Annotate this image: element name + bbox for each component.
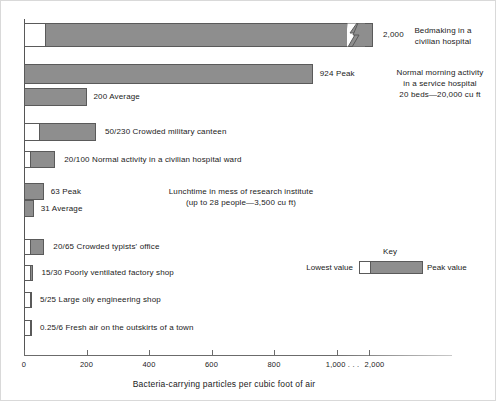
bar-value-label-research-mess-average: 31 Average [41, 205, 83, 213]
bar-value-label-civilian-hospital-ward: 20/100 Normal activity in a civilian hos… [64, 156, 241, 164]
bar-military-canteen [24, 123, 96, 141]
x-tick-label-2000: 2,000 [365, 360, 385, 369]
bar-segment-peak-service-hospital-peak [24, 64, 313, 84]
x-tick-800 [274, 350, 275, 356]
description-line: (up to 28 people—3,500 cu ft) [121, 197, 361, 208]
legend-swatch-low [359, 261, 371, 274]
description-line: Normal morning activity [387, 67, 493, 78]
bar-value-label-research-mess-peak: 63 Peak [51, 188, 81, 196]
bar-fresh-air [24, 320, 32, 336]
x-tick-2000 [369, 350, 370, 356]
bar-description-service-hospital-peak: Normal morning activityin a service hosp… [387, 67, 493, 100]
legend-low-label: Lowest value [306, 263, 353, 272]
x-tick-label-600: 600 [205, 360, 218, 369]
bar-segment-peak-bedmaking [46, 23, 373, 47]
bar-bedmaking [24, 23, 373, 47]
bar-segment-low-fresh-air [24, 320, 31, 336]
bar-segment-low-factory-shop [24, 265, 31, 281]
bar-service-hospital-average [24, 88, 87, 106]
bar-segment-low-bedmaking [24, 23, 46, 47]
bar-description-research-mess-peak: Lunchtime in mess of research institute(… [121, 186, 361, 208]
bar-segment-low-military-canteen [24, 123, 40, 141]
description-line: Lunchtime in mess of research institute [121, 186, 361, 197]
bar-value-label-military-canteen: 50/230 Crowded military canteen [105, 128, 227, 136]
bar-segment-peak-research-mess-average [24, 200, 34, 217]
x-tick-label-0: 0 [22, 360, 26, 369]
x-tick-label-200: 200 [80, 360, 93, 369]
bar-factory-shop [24, 265, 33, 281]
bar-value-label-fresh-air: 0.25/6 Fresh air on the outskirts of a t… [40, 324, 194, 332]
bar-value-label-typists-office: 20/65 Crowded typists' office [53, 243, 159, 251]
bar-segment-peak-research-mess-peak [24, 183, 44, 200]
bar-segment-peak-typists-office [31, 239, 44, 255]
description-line: civilian hospital [397, 36, 489, 47]
bar-value-label-factory-shop: 15/30 Poorly ventilated factory shop [41, 269, 174, 277]
bar-segment-low-typists-office [24, 239, 31, 255]
bar-segment-peak-civilian-hospital-ward [31, 151, 55, 168]
bar-civilian-hospital-ward [24, 151, 55, 168]
plot-area: 02004006008001,000 . . .2,000 2,000Bedma… [1, 1, 496, 401]
description-line: 20 beds—20,000 cu ft [387, 89, 493, 100]
bar-typists-office [24, 239, 44, 255]
x-tick-label-1000: 1,000 . . . [326, 360, 359, 369]
bar-segment-peak-engineering-shop [31, 292, 32, 308]
description-line: Bedmaking in a [397, 25, 489, 36]
bar-value-label-engineering-shop: 5/25 Large oily engineering shop [40, 296, 161, 304]
x-tick-600 [212, 350, 213, 356]
bar-segment-peak-military-canteen [40, 123, 96, 141]
chart-legend: Key Lowest value Peak value [297, 247, 483, 281]
chart-figure: 02004006008001,000 . . .2,000 2,000Bedma… [0, 0, 496, 401]
bar-research-mess-average [24, 200, 34, 217]
x-tick-label-400: 400 [142, 360, 155, 369]
bar-engineering-shop [24, 292, 32, 308]
bar-segment-low-engineering-shop [24, 292, 31, 308]
bar-description-bedmaking: Bedmaking in acivilian hospital [397, 25, 489, 47]
bar-segment-peak-factory-shop [31, 265, 33, 281]
bar-value-label-service-hospital-average: 200 Average [94, 93, 140, 101]
bar-segment-low-civilian-hospital-ward [24, 151, 31, 168]
x-tick-1000 [337, 350, 338, 356]
x-tick-label-800: 800 [267, 360, 280, 369]
bar-segment-peak-service-hospital-average [24, 88, 87, 106]
legend-title: Key [297, 247, 483, 256]
x-axis-title: Bacteria-carrying particles per cubic fo… [24, 379, 424, 389]
legend-swatch [359, 261, 423, 274]
description-line: in a service hospital [387, 78, 493, 89]
legend-peak-label: Peak value [427, 263, 467, 272]
x-tick-200 [87, 350, 88, 356]
x-tick-0 [24, 350, 25, 356]
bar-value-label-service-hospital-peak: 924 Peak [320, 70, 355, 78]
bar-research-mess-peak [24, 183, 44, 200]
x-tick-400 [149, 350, 150, 356]
x-axis-line [24, 355, 452, 356]
bar-segment-peak-fresh-air [31, 320, 32, 336]
legend-swatch-peak [371, 261, 423, 274]
bar-service-hospital-peak [24, 64, 313, 84]
